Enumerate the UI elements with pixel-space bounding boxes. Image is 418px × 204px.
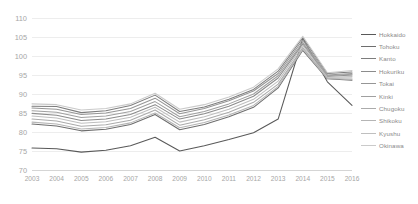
x-axis-tick-label: 2007 [123, 175, 138, 182]
legend-label: Tokai [379, 80, 394, 87]
x-axis-tick-label: 2010 [197, 175, 212, 182]
y-axis-tick-labels: 707580859095100105110 [15, 14, 27, 175]
legend-swatch-icon [361, 133, 376, 134]
legend-item-shikoku[interactable]: Shikoku [361, 115, 418, 127]
y-axis-tick-label: 85 [19, 109, 27, 118]
legend-item-hokuriku[interactable]: Hokuriku [361, 65, 418, 77]
legend-item-kinki[interactable]: Kinki [361, 90, 418, 102]
legend-label: Tohoku [379, 43, 400, 50]
y-axis-tick-label: 110 [15, 14, 27, 23]
legend-label: Kinki [379, 93, 393, 100]
legend-swatch-icon [361, 46, 376, 47]
x-axis-tick-label: 2008 [148, 175, 163, 182]
x-axis-tick-label: 2004 [49, 175, 64, 182]
legend-label: Kanto [379, 55, 396, 62]
legend-item-hokkaido[interactable]: Hokkaido [361, 28, 418, 40]
legend-label: Hokuriku [379, 68, 404, 75]
x-axis-tick-label: 2011 [222, 175, 237, 182]
legend-label: Shikoku [379, 117, 402, 124]
legend-swatch-icon [361, 120, 376, 121]
legend-item-tohoku[interactable]: Tohoku [361, 40, 418, 52]
series-line-hokkaido [32, 39, 352, 153]
x-axis-tick-label: 2014 [295, 175, 310, 182]
legend-item-kyushu[interactable]: Kyushu [361, 127, 418, 139]
y-axis-tick-label: 80 [19, 128, 27, 137]
legend-label: Hokkaido [379, 31, 406, 38]
y-axis-tick-label: 100 [15, 52, 27, 61]
series-line-tohoku [32, 50, 352, 131]
x-axis-tick-label: 2006 [99, 175, 114, 182]
legend-swatch-icon [361, 145, 376, 146]
legend-swatch-icon [361, 34, 376, 35]
series-line-kinki [32, 42, 352, 117]
y-axis-tick-label: 95 [19, 71, 27, 80]
legend-label: Kyushu [379, 130, 400, 137]
y-axis-tick-label: 90 [19, 90, 27, 99]
y-axis-tick-label: 75 [19, 147, 27, 156]
chart-plot-area: 707580859095100105110 200320042005200620… [0, 0, 418, 204]
x-axis-tick-labels: 2003200420052006200720082009201020112012… [25, 175, 360, 182]
x-axis-tick-label: 2016 [345, 175, 360, 182]
legend-item-chugoku[interactable]: Chugoku [361, 102, 418, 114]
line-chart: 707580859095100105110 200320042005200620… [0, 0, 418, 204]
x-axis-tick-label: 2013 [271, 175, 286, 182]
x-axis-tick-label: 2015 [320, 175, 335, 182]
legend-swatch-icon [361, 71, 376, 72]
legend-item-kanto[interactable]: Kanto [361, 53, 418, 65]
legend-item-okinawa[interactable]: Okinawa [361, 140, 418, 152]
y-axis-tick-label: 70 [19, 166, 27, 175]
legend-swatch-icon [361, 108, 376, 109]
legend-swatch-icon [361, 58, 376, 59]
y-axis-tick-label: 105 [15, 33, 27, 42]
legend-swatch-icon [361, 83, 376, 84]
x-axis-tick-label: 2009 [172, 175, 187, 182]
legend-swatch-icon [361, 96, 376, 97]
legend-label: Chugoku [379, 105, 404, 112]
x-axis-tick-label: 2003 [25, 175, 40, 182]
x-axis-tick-label: 2005 [74, 175, 89, 182]
legend-item-tokai[interactable]: Tokai [361, 78, 418, 90]
chart-legend: HokkaidoTohokuKantoHokurikuTokaiKinkiChu… [361, 28, 418, 152]
legend-label: Okinawa [379, 142, 404, 149]
x-axis-tick-label: 2012 [246, 175, 261, 182]
